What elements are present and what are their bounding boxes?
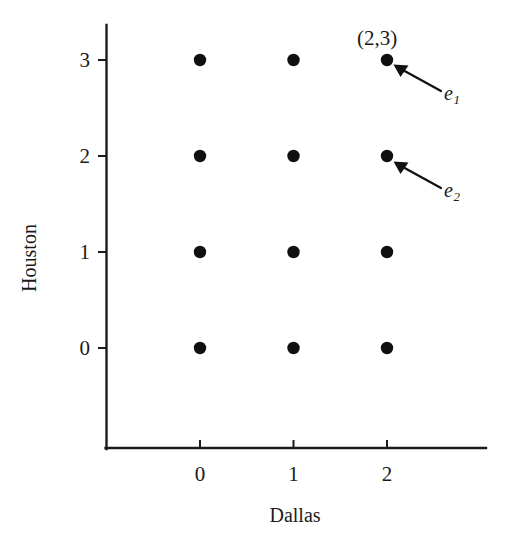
annotation-label-e1-subscript: 1	[453, 92, 460, 107]
x-tick-label-2: 2	[372, 464, 402, 485]
data-point	[287, 342, 299, 354]
y-tick-label-0: 0	[60, 338, 90, 359]
data-point	[381, 246, 393, 258]
data-point	[381, 150, 393, 162]
annotation-label-e2-base: e	[444, 179, 453, 201]
data-point	[194, 342, 206, 354]
point-coordinate-label: (2,3)	[357, 28, 397, 49]
y-axis-title: Houston	[19, 208, 39, 308]
y-tick-label-2: 2	[60, 146, 90, 167]
x-tick-label-0: 0	[185, 464, 215, 485]
annotation-label-e2: e2	[444, 180, 459, 200]
annotation-label-e2-subscript: 2	[453, 189, 460, 204]
y-tick-label-3: 3	[60, 50, 90, 71]
data-point	[287, 150, 299, 162]
x-axis-title: Dallas	[245, 505, 345, 525]
data-point	[194, 54, 206, 66]
data-point	[287, 246, 299, 258]
data-point	[194, 150, 206, 162]
annotation-label-e1: e1	[444, 83, 459, 103]
annotation-arrow-e2	[394, 162, 442, 189]
data-point	[381, 54, 393, 66]
data-point-group	[194, 54, 393, 354]
annotation-label-e1-base: e	[444, 82, 453, 104]
data-point	[381, 342, 393, 354]
scatter-plot-figure: 3 2 1 0 0 1 2 Houston Dallas (2,3) e1 e2	[0, 0, 515, 541]
data-point	[194, 246, 206, 258]
y-tick-label-1: 1	[60, 242, 90, 263]
x-tick-label-1: 1	[279, 464, 309, 485]
plot-canvas	[0, 0, 515, 541]
data-point	[287, 54, 299, 66]
annotation-arrow-e1	[394, 65, 442, 92]
